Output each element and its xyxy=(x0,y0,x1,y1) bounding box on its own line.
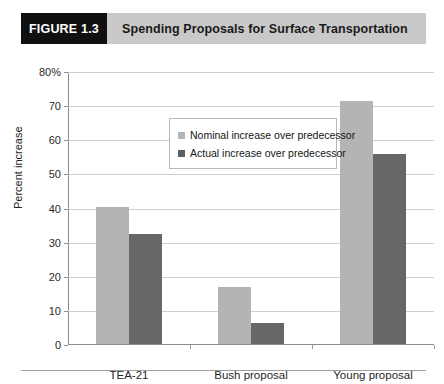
y-tick-mark xyxy=(64,72,68,73)
y-tick-label: 30 xyxy=(49,237,61,249)
bar-chart: Percent increase 01020304050607080% TEA-… xyxy=(0,57,444,370)
y-tick-mark xyxy=(64,277,68,278)
y-tick-label: 50 xyxy=(49,168,61,180)
x-axis-line xyxy=(68,344,434,345)
legend-entry: Actual increase over predecessor xyxy=(178,147,328,159)
legend-entry: Nominal increase over predecessor xyxy=(178,129,328,141)
bar-nominal[interactable] xyxy=(218,287,251,344)
x-tick-mark xyxy=(190,345,191,349)
y-tick-label: 70 xyxy=(49,100,61,112)
y-tick-mark xyxy=(64,311,68,312)
x-tick-mark xyxy=(434,345,435,349)
bar-actual[interactable] xyxy=(251,323,284,344)
bottom-divider xyxy=(21,370,426,371)
y-tick-label: 0 xyxy=(55,339,61,351)
y-tick-mark xyxy=(64,209,68,210)
legend-label: Nominal increase over predecessor xyxy=(190,129,355,141)
legend-swatch-icon xyxy=(178,150,185,157)
y-tick-mark xyxy=(64,174,68,175)
bar-actual[interactable] xyxy=(373,154,406,344)
gridline xyxy=(68,106,434,107)
legend-swatch-icon xyxy=(178,132,185,139)
y-tick-mark xyxy=(64,345,68,346)
y-tick-label: 80% xyxy=(39,66,61,78)
gridline xyxy=(68,72,434,73)
y-tick-label: 60 xyxy=(49,134,61,146)
x-tick-mark xyxy=(312,345,313,349)
legend-label: Actual increase over predecessor xyxy=(190,147,346,159)
y-tick-label: 10 xyxy=(49,305,61,317)
y-tick-mark xyxy=(64,106,68,107)
bar-nominal[interactable] xyxy=(96,207,129,344)
y-tick-label: 40 xyxy=(49,203,61,215)
figure-title-bar: Spending Proposals for Surface Transport… xyxy=(107,13,426,44)
figure-header: FIGURE 1.3 Spending Proposals for Surfac… xyxy=(21,13,426,44)
figure-number-label: FIGURE 1.3 xyxy=(29,22,99,36)
figure-number-box: FIGURE 1.3 xyxy=(21,13,107,44)
chart-legend: Nominal increase over predecessorActual … xyxy=(169,118,337,169)
figure-title: Spending Proposals for Surface Transport… xyxy=(122,22,408,36)
y-axis-title: Percent increase xyxy=(12,126,24,209)
y-tick-mark xyxy=(64,140,68,141)
y-tick-label: 20 xyxy=(49,271,61,283)
y-tick-mark xyxy=(64,243,68,244)
bar-actual[interactable] xyxy=(129,234,162,344)
plot-area: 01020304050607080% TEA-21Bush proposalYo… xyxy=(68,72,434,345)
